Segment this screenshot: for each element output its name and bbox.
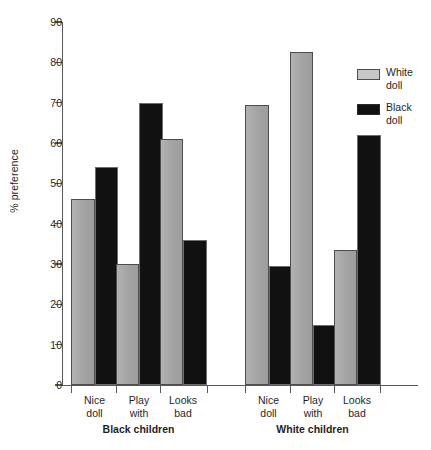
y-axis-tick-label: 20 <box>36 298 62 310</box>
y-axis-tick-label: 40 <box>36 218 62 230</box>
legend-label-line1: Black <box>386 101 412 113</box>
category-label-line: doll <box>86 407 102 419</box>
y-axis-tick-label: 60 <box>36 137 62 149</box>
bar-chart: % preference 0102030405060708090 Nicedol… <box>0 0 431 450</box>
x-axis-category-label: Looksbad <box>325 394 389 419</box>
category-label-line: doll <box>260 407 276 419</box>
bar-black-doll <box>357 135 381 385</box>
y-axis-tick-label: 50 <box>36 177 62 189</box>
category-label-line: Looks <box>343 394 371 406</box>
y-axis-tick-label: 90 <box>36 16 62 28</box>
legend-label-white-doll: White doll <box>386 66 431 91</box>
x-axis-tick-mark <box>116 386 117 393</box>
legend-item: Black doll <box>357 103 431 131</box>
x-axis-tick-mark <box>71 386 72 393</box>
bar-black-doll <box>269 266 293 385</box>
bar-white-doll <box>116 264 140 385</box>
bar-white-doll <box>71 199 95 385</box>
x-axis-tick-mark <box>290 386 291 393</box>
legend-label-black-doll: Black doll <box>386 101 431 126</box>
bar-white-doll <box>290 52 314 385</box>
legend: White doll Black doll <box>357 68 431 138</box>
legend-label-line1: White <box>386 66 413 78</box>
bar-black-doll <box>95 167 119 385</box>
category-label-line: Nice <box>84 394 105 406</box>
legend-swatch-white-doll <box>357 69 380 80</box>
legend-label-line2: doll <box>386 114 402 126</box>
category-label-line: with <box>130 407 149 419</box>
category-label-line: Play <box>303 394 323 406</box>
category-label-line: Nice <box>258 394 279 406</box>
bar-white-doll <box>160 139 184 385</box>
y-axis-label: % preference <box>8 136 20 226</box>
category-label-line: Play <box>129 394 149 406</box>
y-axis-tick-label: 0 <box>36 379 62 391</box>
category-label-line: bad <box>174 407 192 419</box>
legend-swatch-black-doll <box>357 104 380 115</box>
category-label-line: Looks <box>169 394 197 406</box>
x-axis-tick-mark <box>160 386 161 393</box>
x-axis-tick-mark <box>207 386 208 393</box>
legend-item: White doll <box>357 68 431 96</box>
y-axis-tick-label: 10 <box>36 339 62 351</box>
y-axis-tick-label: 70 <box>36 97 62 109</box>
bar-black-doll <box>183 240 207 385</box>
x-axis-group-label: White children <box>238 423 388 435</box>
y-axis-tick-label: 80 <box>36 56 62 68</box>
y-axis-tick-label: 30 <box>36 258 62 270</box>
x-axis-tick-mark <box>380 386 381 393</box>
category-label-line: bad <box>348 407 366 419</box>
x-axis-tick-mark <box>334 386 335 393</box>
x-axis-category-label: Looksbad <box>151 394 215 419</box>
x-axis-tick-mark <box>245 386 246 393</box>
x-axis-group-label: Black children <box>64 423 214 435</box>
bar-white-doll <box>334 250 358 385</box>
bar-white-doll <box>245 105 269 385</box>
legend-label-line2: doll <box>386 79 402 91</box>
category-label-line: with <box>304 407 323 419</box>
